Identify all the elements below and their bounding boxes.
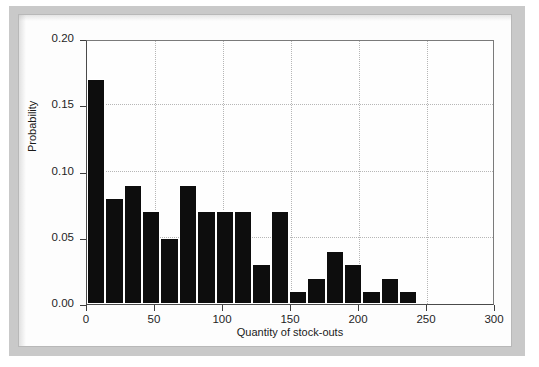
bar xyxy=(216,211,234,304)
bar xyxy=(160,238,178,304)
bar-series xyxy=(87,41,493,304)
bar xyxy=(381,278,399,305)
x-tick-mark xyxy=(426,305,427,311)
bar xyxy=(289,291,307,304)
bar xyxy=(105,198,123,304)
y-tick-label: 0.00 xyxy=(24,297,74,309)
bar xyxy=(271,211,289,304)
x-tick-mark xyxy=(86,305,87,311)
y-axis-label: Probability xyxy=(26,32,38,152)
x-tick-label: 0 xyxy=(61,313,111,325)
x-tick-mark xyxy=(290,305,291,311)
x-tick-label: 100 xyxy=(197,313,247,325)
x-tick-mark xyxy=(154,305,155,311)
bar xyxy=(252,264,270,304)
bar xyxy=(326,251,344,304)
bar xyxy=(234,211,252,304)
x-tick-mark xyxy=(358,305,359,311)
bar xyxy=(124,185,142,304)
bar xyxy=(344,264,362,304)
bar xyxy=(307,278,325,305)
y-tick-label: 0.20 xyxy=(24,32,74,44)
x-tick-mark xyxy=(222,305,223,311)
bar xyxy=(399,291,417,304)
x-tick-label: 200 xyxy=(333,313,383,325)
figure-root: Probability 0.000.050.100.150.20 0501001… xyxy=(0,0,539,367)
y-tick-label: 0.10 xyxy=(24,165,74,177)
x-tick-label: 50 xyxy=(129,313,179,325)
x-tick-label: 300 xyxy=(469,313,519,325)
bar xyxy=(142,211,160,304)
plot-area xyxy=(86,40,494,305)
x-tick-label: 150 xyxy=(265,313,315,325)
bar xyxy=(179,185,197,304)
y-tick-label: 0.15 xyxy=(24,98,74,110)
bar xyxy=(362,291,380,304)
bar xyxy=(197,211,215,304)
x-tick-mark xyxy=(494,305,495,311)
y-tick-label: 0.05 xyxy=(24,231,74,243)
bar xyxy=(87,79,105,304)
x-tick-label: 250 xyxy=(401,313,451,325)
x-axis-label: Quantity of stock-outs xyxy=(86,326,494,338)
